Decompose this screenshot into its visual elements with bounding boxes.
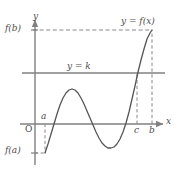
f-of-b-label: f(b) bbox=[5, 24, 21, 33]
curve-name-label: y = f(x) bbox=[121, 17, 155, 26]
point-c-label: c bbox=[134, 126, 139, 135]
point-a-label: a bbox=[41, 112, 46, 121]
y-axis-label: y bbox=[33, 12, 38, 21]
f-of-a-label: f(a) bbox=[5, 146, 21, 155]
origin-label: O bbox=[25, 125, 32, 134]
math-graph-figure: y x O f(b) f(a) a c b y = k y = f(x) bbox=[0, 0, 179, 170]
line-k-label: y = k bbox=[67, 62, 91, 71]
point-b-label: b bbox=[149, 126, 155, 135]
x-axis-label: x bbox=[166, 117, 171, 126]
